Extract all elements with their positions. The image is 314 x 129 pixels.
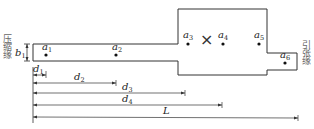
point-a5: a5 bbox=[254, 29, 264, 46]
svg-text:d1: d1 bbox=[33, 63, 44, 76]
point-a6: a6 bbox=[280, 49, 290, 65]
point-a4: a4 bbox=[218, 29, 228, 46]
dimension-L: L bbox=[33, 105, 298, 121]
svg-text:d2: d2 bbox=[74, 71, 85, 84]
svg-text:d4: d4 bbox=[122, 93, 133, 106]
svg-text:a5: a5 bbox=[254, 29, 264, 42]
dimension-d1: d1 bbox=[33, 63, 46, 78]
svg-text:a6: a6 bbox=[280, 49, 290, 62]
centroid-marker: × bbox=[200, 30, 213, 49]
point-a2: a2 bbox=[112, 41, 122, 57]
point-a1: a1 bbox=[42, 41, 52, 57]
point-a3: a3 bbox=[183, 29, 193, 46]
svg-text:a4: a4 bbox=[218, 29, 228, 42]
svg-text:a2: a2 bbox=[112, 41, 122, 54]
svg-text:b1: b1 bbox=[15, 47, 26, 60]
dimension-d2: d2 bbox=[33, 71, 116, 86]
svg-text:a3: a3 bbox=[183, 29, 193, 42]
svg-text:a1: a1 bbox=[42, 41, 52, 54]
section-outline bbox=[33, 9, 297, 75]
cross-section-diagram: b1 a1 a2 a3 × a4 a5 a6 d1 d2 bbox=[0, 0, 314, 129]
dimension-d4: d4 bbox=[33, 93, 222, 108]
svg-text:L: L bbox=[162, 105, 170, 116]
thickness-dimension: b1 bbox=[15, 44, 30, 61]
